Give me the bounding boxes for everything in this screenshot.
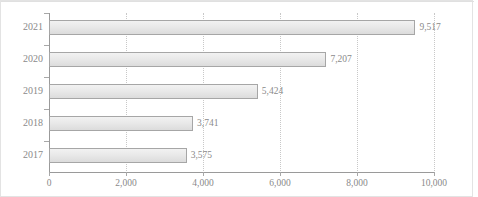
bar-row: 3,741: [49, 109, 478, 139]
x-axis-line: [49, 172, 435, 173]
y-axis-label-2019: 2019: [1, 84, 43, 98]
x-axis-tick: [49, 172, 50, 176]
y-axis-label-2018: 2018: [1, 116, 43, 130]
y-axis-tick: [44, 141, 49, 142]
bar-value-label-2019: 5,424: [258, 84, 283, 99]
y-axis-label-2020: 2020: [1, 52, 43, 66]
x-axis-tick: [280, 172, 281, 176]
x-axis-label-8000: 8,000: [346, 178, 367, 188]
bar-2018[interactable]: [49, 116, 193, 131]
y-axis-tick: [44, 109, 49, 110]
bar-2019[interactable]: [49, 84, 258, 99]
x-axis-label-0: 0: [47, 178, 52, 188]
bar-value-label-2020: 7,207: [326, 52, 351, 67]
bar-2017[interactable]: [49, 148, 187, 163]
x-axis-label-10000: 10,000: [421, 178, 447, 188]
y-axis-tick: [44, 13, 49, 14]
x-axis-tick: [203, 172, 204, 176]
top-divider-rule: [1, 1, 474, 2]
x-axis-label-4000: 4,000: [192, 178, 213, 188]
x-axis-tick: [434, 172, 435, 176]
bar-2020[interactable]: [49, 52, 326, 67]
y-axis-label-2017: 2017: [1, 148, 43, 162]
bar-row: 7,207: [49, 45, 478, 75]
bar-value-label-2018: 3,741: [193, 116, 218, 131]
y-axis-tick: [44, 77, 49, 78]
bar-row: 5,424: [49, 77, 478, 107]
y-axis-tick: [44, 45, 49, 46]
x-axis-tick: [126, 172, 127, 176]
x-axis-label-2000: 2,000: [115, 178, 136, 188]
bar-row: 3,575: [49, 141, 478, 171]
y-axis-label-2021: 2021: [1, 20, 43, 34]
bar-2021[interactable]: [49, 20, 415, 35]
bar-value-label-2017: 3,575: [187, 148, 212, 163]
bar-value-label-2021: 9,517: [415, 20, 440, 35]
x-axis-tick: [357, 172, 358, 176]
bar-row: 9,517: [49, 13, 478, 43]
x-axis-label-6000: 6,000: [269, 178, 290, 188]
